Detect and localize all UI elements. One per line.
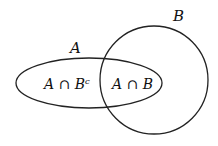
- venn-diagram: A B A ∩ Bᶜ A ∩ B: [0, 0, 218, 146]
- set-b-label: B: [172, 7, 184, 25]
- set-a-label: A: [68, 39, 81, 57]
- region-a-and-b-label: A ∩ B: [110, 76, 153, 92]
- region-a-minus-b-label: A ∩ Bᶜ: [42, 76, 90, 92]
